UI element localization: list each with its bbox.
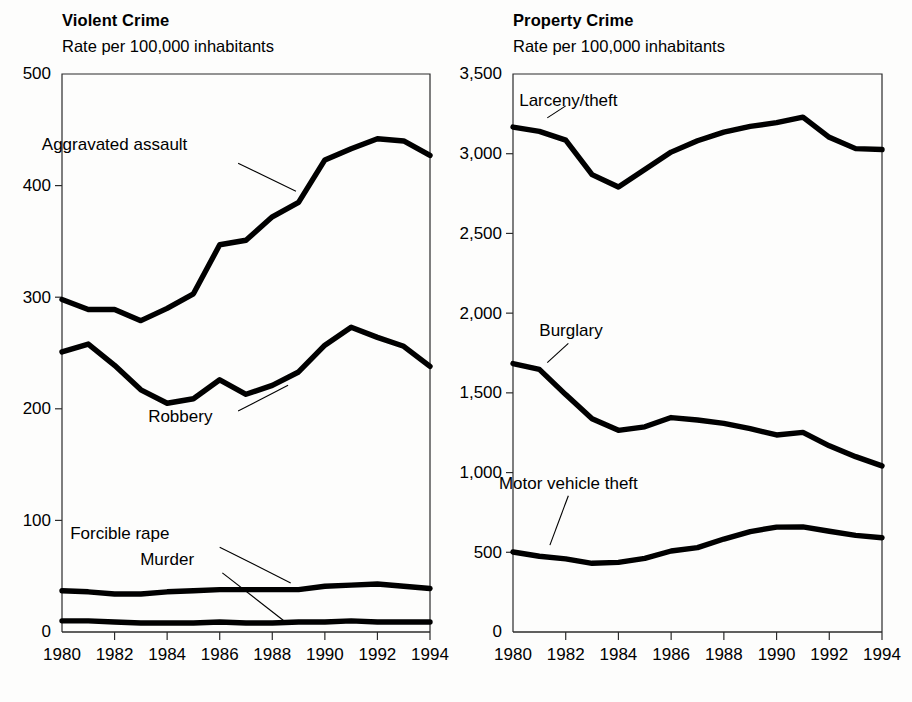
leader-line-motor-vehicle-theft — [550, 496, 568, 545]
y-axis-tick-label: 400 — [23, 176, 51, 195]
x-axis-tick-label: 1994 — [411, 645, 449, 664]
y-axis-tick-label: 1,000 — [459, 463, 502, 482]
series-label-larceny-theft: Larceny/theft — [519, 91, 618, 110]
y-axis-tick-label: 500 — [474, 543, 502, 562]
y-axis-tick-label: 200 — [23, 399, 51, 418]
y-axis-tick-label: 0 — [42, 622, 51, 641]
series-label-murder: Murder — [140, 550, 194, 569]
y-axis-tick-label: 100 — [23, 511, 51, 530]
x-axis-tick-label: 1984 — [600, 645, 638, 664]
series-line-murder — [62, 621, 430, 623]
series-line-larceny-theft — [513, 117, 882, 187]
x-axis-tick-label: 1994 — [863, 645, 901, 664]
y-axis-tick-label: 1,500 — [459, 383, 502, 402]
x-axis-tick-label: 1982 — [547, 645, 585, 664]
x-axis-tick-label: 1990 — [306, 645, 344, 664]
violent-crime-panel: Violent Crime Rate per 100,000 inhabitan… — [0, 0, 456, 702]
x-axis-tick-label: 1986 — [652, 645, 690, 664]
series-label-burglary: Burglary — [539, 321, 603, 340]
y-axis-tick-label: 300 — [23, 288, 51, 307]
x-axis-tick-label: 1990 — [758, 645, 796, 664]
series-label-robbery: Robbery — [148, 407, 213, 426]
property-crime-panel: Property Crime Rate per 100,000 inhabita… — [456, 0, 912, 702]
violent-crime-plot: 0100200300400500198019821984198619881990… — [0, 0, 456, 702]
leader-line-burglary — [547, 343, 568, 362]
series-line-aggravated-assault — [62, 139, 430, 321]
x-axis-tick-label: 1988 — [705, 645, 743, 664]
x-axis-tick-label: 1992 — [810, 645, 848, 664]
series-line-motor-vehicle-theft — [513, 527, 882, 563]
y-axis-tick-label: 2,500 — [459, 224, 502, 243]
y-axis-tick-label: 500 — [23, 64, 51, 83]
x-axis-tick-label: 1982 — [96, 645, 134, 664]
x-axis-tick-label: 1992 — [359, 645, 397, 664]
x-axis-tick-label: 1986 — [201, 645, 239, 664]
series-label-motor-vehicle-theft: Motor vehicle theft — [499, 474, 638, 493]
leader-line-aggravated-assault — [238, 163, 296, 191]
x-axis-tick-label: 1980 — [494, 645, 532, 664]
y-axis-tick-label: 0 — [493, 622, 502, 641]
series-line-robbery — [62, 327, 430, 403]
leader-line-murder — [222, 573, 285, 622]
x-axis-tick-label: 1984 — [148, 645, 186, 664]
x-axis-tick-label: 1988 — [253, 645, 291, 664]
property-crime-plot: 05001,0001,5002,0002,5003,0003,500198019… — [456, 0, 912, 702]
x-axis-tick-label: 1980 — [43, 645, 81, 664]
y-axis-tick-label: 3,000 — [459, 144, 502, 163]
chart-page: Violent Crime Rate per 100,000 inhabitan… — [0, 0, 912, 702]
series-label-forcible-rape: Forcible rape — [70, 524, 169, 543]
series-label-aggravated-assault: Aggravated assault — [42, 135, 188, 154]
series-line-forcible-rape — [62, 584, 430, 594]
y-axis-tick-label: 2,000 — [459, 304, 502, 323]
series-line-burglary — [513, 364, 882, 466]
y-axis-tick-label: 3,500 — [459, 64, 502, 83]
leader-line-forcible-rape — [220, 547, 291, 583]
